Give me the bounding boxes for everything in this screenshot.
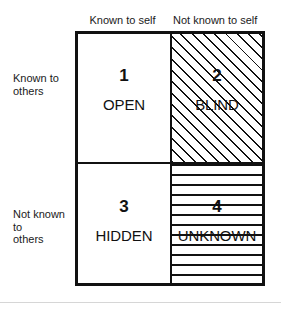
quadrant-hidden-content: 3 HIDDEN (78, 164, 170, 283)
quadrant-unknown-number: 4 (212, 197, 222, 216)
row-label-not-known-to-others-line2: others (13, 233, 44, 245)
column-header-known-to-self: Known to self (75, 14, 170, 27)
column-header-not-known-to-self: Not known to self (170, 14, 281, 27)
row-label-not-known-to-others-line1: Not known to (13, 208, 65, 233)
quadrant-blind-label: BLIND (195, 96, 239, 113)
quadrant-unknown: 4 UNKNOWN (170, 162, 262, 283)
row-label-not-known-to-others: Not known to others (13, 208, 73, 246)
quadrant-blind-content: 2 BLIND (172, 34, 262, 162)
quadrant-open: 1 OPEN (78, 34, 170, 162)
johari-window-diagram: Known to self Not known to self Known to… (0, 0, 281, 310)
quadrant-hidden-label: HIDDEN (96, 227, 153, 244)
quadrant-hidden-number: 3 (119, 197, 129, 216)
quadrant-hidden: 3 HIDDEN (78, 162, 170, 283)
quadrant-open-label: OPEN (103, 96, 145, 113)
quadrant-open-number: 1 (119, 66, 129, 85)
row-label-known-to-others-line2: others (13, 85, 44, 97)
quadrant-open-content: 1 OPEN (78, 34, 170, 162)
row-label-known-to-others-line1: Known to (13, 72, 59, 84)
quadrant-unknown-label: UNKNOWN (178, 227, 256, 244)
bottom-separator (0, 302, 281, 303)
quadrant-blind-number: 2 (212, 66, 222, 85)
quadrant-blind: 2 BLIND (170, 34, 262, 162)
row-label-known-to-others: Known to others (13, 72, 73, 97)
johari-matrix: 1 OPEN 2 BLIND 3 HIDDEN 4 UNKNOWN (75, 31, 265, 286)
quadrant-unknown-content: 4 UNKNOWN (172, 164, 262, 283)
